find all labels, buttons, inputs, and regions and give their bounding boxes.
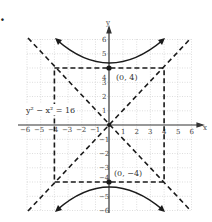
svg-text:−4: −4 <box>48 126 59 134</box>
svg-text:−6: −6 <box>99 207 110 215</box>
vertex-top <box>106 65 111 70</box>
svg-text:6: 6 <box>190 128 195 136</box>
x-axis-label: x <box>203 124 207 132</box>
svg-text:2: 2 <box>135 128 139 136</box>
svg-text:1: 1 <box>102 107 106 115</box>
vertex-top-label: (0, 4) <box>116 73 138 82</box>
vertex-bottom-label: (0, −4) <box>114 169 142 178</box>
vertex-bottom <box>106 179 111 184</box>
y-axis-label: y <box>105 19 110 27</box>
y-axis-arrow-icon <box>107 27 111 33</box>
svg-text:−1: −1 <box>90 126 100 134</box>
center-point <box>107 123 111 127</box>
svg-text:6: 6 <box>102 36 107 44</box>
svg-text:5: 5 <box>176 128 180 136</box>
equation-label: y² − x² = 16 <box>25 106 75 115</box>
svg-text:−1: −1 <box>99 136 109 144</box>
svg-text:3: 3 <box>102 79 106 87</box>
svg-text:−5: −5 <box>99 193 109 201</box>
svg-text:−3: −3 <box>62 126 72 134</box>
svg-text:1: 1 <box>121 128 125 136</box>
lower-branch <box>57 187 163 210</box>
svg-text:−5: −5 <box>34 126 44 134</box>
svg-text:5: 5 <box>102 50 106 58</box>
svg-text:−2: −2 <box>76 126 86 134</box>
hyperbola-graph: x y −6 −5 −4 −3 −2 −1 1 2 3 4 5 6 6 5 4 … <box>0 0 212 222</box>
svg-text:−6: −6 <box>20 126 31 134</box>
svg-text:−3: −3 <box>99 164 109 172</box>
svg-text:2: 2 <box>102 93 106 101</box>
upper-branch <box>57 40 163 63</box>
svg-text:−2: −2 <box>99 150 109 158</box>
svg-text:3: 3 <box>148 128 152 136</box>
